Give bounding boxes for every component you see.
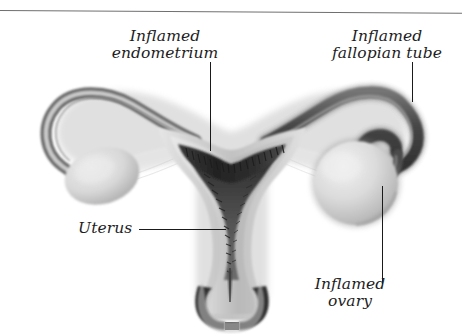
figure-container: Inflamed endometrium Inflamed fallopian … bbox=[0, 0, 462, 334]
leader-line-uterus bbox=[139, 229, 226, 230]
label-inflamed-fallopian-tube: Inflamed fallopian tube bbox=[324, 28, 450, 61]
right-ovary-inflamed bbox=[311, 138, 401, 228]
label-inflamed-endometrium: Inflamed endometrium bbox=[104, 28, 226, 61]
label-endometrium-line1: Inflamed bbox=[130, 27, 201, 45]
label-uterus-line1: Uterus bbox=[78, 219, 132, 237]
leader-line-endometrium bbox=[210, 62, 211, 151]
label-fallopian-line1: Inflamed bbox=[352, 27, 423, 45]
leader-line-fallopian-tube bbox=[412, 62, 413, 102]
label-ovary-line2: ovary bbox=[303, 293, 397, 310]
label-fallopian-line2: fallopian tube bbox=[324, 45, 450, 62]
leader-line-ovary bbox=[382, 186, 383, 284]
label-endometrium-line2: endometrium bbox=[104, 45, 226, 62]
label-inflamed-ovary: Inflamed ovary bbox=[303, 276, 397, 309]
label-ovary-line1: Inflamed bbox=[315, 275, 386, 293]
label-uterus: Uterus bbox=[78, 220, 132, 237]
